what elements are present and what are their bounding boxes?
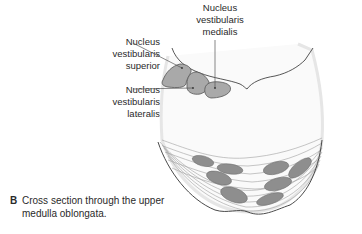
figure-caption: BCross section through the upper medulla… [10,194,210,220]
caption-line-2: medulla oblongata. [10,207,210,220]
panel-letter: B [10,194,22,207]
caption-line-1: Cross section through the upper [22,195,164,206]
